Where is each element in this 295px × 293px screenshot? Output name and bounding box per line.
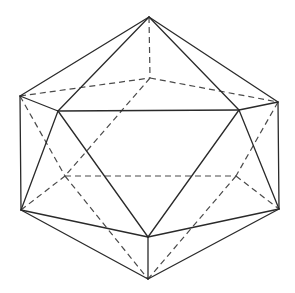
hidden-edge-R-LR	[236, 102, 278, 176]
hidden-edges	[20, 17, 279, 279]
hidden-edge-T-B	[149, 17, 150, 78]
visible-edge-T-R	[149, 17, 278, 102]
visible-edge-FR-R	[239, 102, 278, 110]
hidden-edge-L-B	[20, 78, 150, 96]
hidden-edge-LL-Bt	[65, 176, 148, 279]
visible-edge-FL-FR	[58, 110, 239, 111]
hidden-edge-L-LL	[20, 96, 65, 176]
visible-edge-T-FR	[149, 17, 239, 110]
visible-edge-FR-FB	[148, 110, 239, 237]
visible-edge-BL-FB	[21, 210, 148, 237]
visible-edge-L-BL	[20, 96, 21, 210]
visible-edge-R-BR	[278, 102, 279, 209]
visible-edge-FB-BR	[148, 209, 279, 237]
visible-edge-FL-FB	[58, 111, 148, 237]
visible-edge-BR-Bt	[148, 209, 279, 279]
icosahedron-diagram	[0, 0, 295, 293]
hidden-edge-B-LL	[65, 78, 150, 176]
visible-edges	[20, 17, 279, 279]
visible-edge-FR-BR	[239, 110, 279, 209]
visible-edge-L-FL	[20, 96, 58, 111]
visible-edge-BL-Bt	[21, 210, 148, 279]
